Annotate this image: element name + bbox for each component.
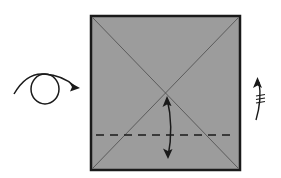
turn-over-icon bbox=[14, 74, 80, 104]
rotate-icon bbox=[253, 77, 265, 120]
diagram-svg bbox=[0, 0, 281, 178]
origami-diagram: Turn over Fold and unfold Rotate bbox=[0, 0, 281, 178]
